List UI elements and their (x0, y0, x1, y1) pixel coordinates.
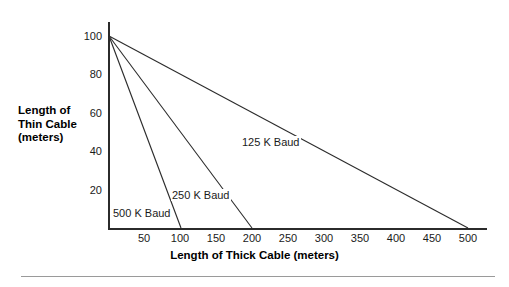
x-tick-label-50: 50 (127, 232, 161, 244)
series-label-500k: 500 K Baud (112, 207, 172, 219)
x-tick-label-150: 150 (199, 232, 233, 244)
y-axis-title-line-2: Thin Cable (18, 118, 77, 132)
y-tick-label-100: 100 (76, 30, 102, 42)
y-axis-title: Length of Thin Cable (meters) (18, 104, 77, 145)
y-tick-label-80: 80 (76, 68, 102, 80)
x-tick-label-350: 350 (343, 232, 377, 244)
series-line-125k (109, 36, 468, 228)
y-tick-label-20: 20 (76, 184, 102, 196)
footer-divider (21, 276, 495, 277)
x-tick-label-250: 250 (271, 232, 305, 244)
x-tick-label-500: 500 (451, 232, 485, 244)
y-tick-label-60: 60 (76, 107, 102, 119)
y-axis-title-line-1: Length of (18, 104, 77, 118)
series-label-125k: 125 K Baud (241, 136, 301, 148)
y-axis-title-line-3: (meters) (18, 131, 77, 145)
x-tick-label-100: 100 (163, 232, 197, 244)
y-tick-label-40: 40 (76, 145, 102, 157)
x-tick-label-450: 450 (415, 232, 449, 244)
x-tick-label-400: 400 (379, 232, 413, 244)
series-label-250k: 250 K Baud (171, 189, 231, 201)
x-tick-label-300: 300 (307, 232, 341, 244)
x-axis-title: Length of Thick Cable (meters) (0, 249, 509, 263)
chart-figure: 100 80 60 40 20 50 100 150 200 250 300 3… (0, 0, 509, 287)
x-tick-label-200: 200 (235, 232, 269, 244)
